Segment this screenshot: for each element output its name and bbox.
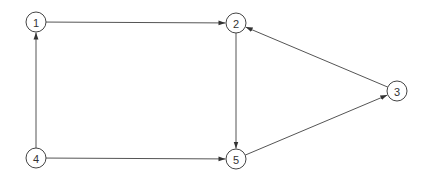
node-label: 3 — [394, 86, 400, 98]
edge-5-to-3 — [245, 95, 387, 155]
node-label: 5 — [233, 154, 239, 166]
node-label: 1 — [33, 17, 39, 29]
node-1: 1 — [26, 12, 46, 32]
edges-layer — [36, 22, 388, 159]
nodes-layer: 12345 — [26, 12, 407, 169]
edge-3-to-2 — [246, 27, 388, 87]
node-label: 2 — [233, 18, 239, 30]
graph-canvas: 12345 — [0, 0, 433, 182]
node-2: 2 — [226, 13, 246, 33]
node-5: 5 — [226, 149, 246, 169]
node-3: 3 — [387, 81, 407, 101]
node-label: 4 — [33, 153, 39, 165]
edge-4-to-5 — [46, 158, 226, 159]
node-4: 4 — [26, 148, 46, 168]
edge-1-to-2 — [46, 22, 226, 23]
